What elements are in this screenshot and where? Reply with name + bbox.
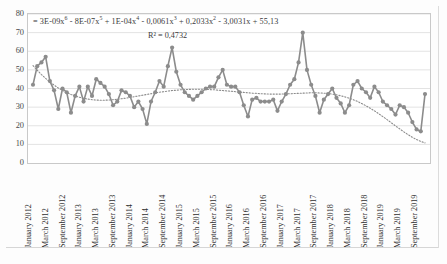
page-rule-right	[438, 6, 439, 248]
data-point	[284, 92, 288, 96]
data-point	[351, 83, 355, 87]
x-axis-tick-label: January 2012	[24, 204, 33, 248]
x-axis-tick-label: March 2019	[393, 208, 402, 248]
data-point	[115, 99, 119, 103]
data-point	[393, 112, 397, 116]
y-axis-tick-label: 20	[2, 121, 24, 130]
data-point	[263, 99, 267, 103]
data-point	[292, 77, 296, 81]
data-point	[360, 86, 364, 90]
data-point	[170, 45, 174, 49]
r-squared-label: R² = 0,4732	[148, 31, 187, 40]
data-point	[267, 99, 271, 103]
data-point	[149, 99, 153, 103]
data-point	[423, 92, 427, 96]
data-point	[132, 105, 136, 109]
data-point	[200, 90, 204, 94]
x-axis-tick-label: March 2018	[343, 208, 352, 248]
x-axis-tick-label: March 2014	[141, 208, 150, 248]
data-point	[212, 85, 216, 89]
data-point	[368, 96, 372, 100]
data-point	[145, 122, 149, 126]
data-point	[372, 85, 376, 89]
data-point	[259, 99, 263, 103]
x-axis-tick-label: March 2015	[192, 208, 201, 248]
x-axis-tick-label: September 2014	[158, 195, 167, 248]
x-axis-tick-label: March 2013	[91, 208, 100, 248]
data-point	[318, 111, 322, 115]
data-point	[69, 111, 73, 115]
plot-area	[27, 13, 431, 164]
y-axis-tick-label: 10	[2, 139, 24, 148]
trendline-equation: = 3E-09x6 - 8E-07x5 + 1E-04x4 - 0,0061x3…	[33, 15, 279, 26]
data-point	[60, 86, 64, 90]
data-point	[90, 94, 94, 98]
x-axis: January 2012March 2012September 2012Janu…	[27, 166, 431, 258]
chart-figure: 01020304050607080 = 3E-09x6 - 8E-07x5 + …	[0, 0, 447, 264]
data-point	[98, 81, 102, 85]
data-point	[339, 101, 343, 105]
data-point	[52, 88, 56, 92]
data-point	[191, 98, 195, 102]
data-point	[322, 98, 326, 102]
data-point	[246, 114, 250, 118]
data-point	[330, 86, 334, 90]
x-axis-tick-label: January 2016	[225, 204, 234, 248]
data-series-layer	[28, 14, 430, 163]
data-point	[107, 92, 111, 96]
data-point	[178, 83, 182, 87]
x-axis-tick-label: January 2015	[175, 204, 184, 248]
x-axis-tick-label: January 2013	[74, 204, 83, 248]
data-point	[280, 99, 284, 103]
data-point	[237, 90, 241, 94]
x-axis-tick-label: September 2019	[410, 195, 419, 248]
data-point	[221, 68, 225, 72]
data-point	[94, 77, 98, 81]
data-point	[86, 85, 90, 89]
data-point	[56, 107, 60, 111]
y-axis-tick-label: 50	[2, 65, 24, 74]
x-axis-tick-label: January 2017	[276, 204, 285, 248]
data-point	[233, 85, 237, 89]
data-point	[414, 127, 418, 131]
data-point	[162, 85, 166, 89]
x-axis-tick-label: March 2017	[293, 208, 302, 248]
data-point	[275, 109, 279, 113]
data-point	[65, 90, 69, 94]
data-point	[364, 90, 368, 94]
data-point	[343, 111, 347, 115]
data-point	[111, 103, 115, 107]
data-point	[140, 107, 144, 111]
data-point	[195, 94, 199, 98]
data-point	[229, 85, 233, 89]
data-point	[309, 83, 313, 87]
data-point	[204, 86, 208, 90]
data-point	[254, 96, 258, 100]
data-point	[208, 85, 212, 89]
y-axis-tick-label: 80	[2, 9, 24, 18]
x-axis-tick-label: March 2012	[41, 208, 50, 248]
x-axis-tick-label: September 2017	[309, 195, 318, 248]
data-point	[296, 60, 300, 64]
data-point	[73, 94, 77, 98]
y-axis-tick-label: 30	[2, 102, 24, 111]
x-axis-tick-label: September 2012	[58, 195, 67, 248]
data-point	[35, 64, 39, 68]
x-axis-tick-label: September 2015	[209, 195, 218, 248]
data-point	[385, 103, 389, 107]
page-rule-bottom	[6, 247, 438, 248]
data-point	[183, 90, 187, 94]
x-axis-tick-label: March 2016	[242, 208, 251, 248]
data-point	[119, 88, 123, 92]
y-axis-tick-label: 70	[2, 28, 24, 37]
data-point	[157, 79, 161, 83]
data-point	[166, 64, 170, 68]
data-point	[216, 75, 220, 79]
x-axis-tick-label: September 2013	[108, 195, 117, 248]
data-point	[301, 31, 305, 35]
data-point	[81, 99, 85, 103]
x-axis-tick-label: January 2019	[376, 204, 385, 248]
data-point	[398, 103, 402, 107]
data-point	[103, 85, 107, 89]
data-point	[225, 83, 229, 87]
